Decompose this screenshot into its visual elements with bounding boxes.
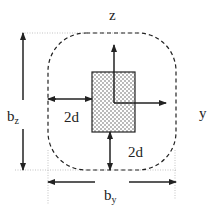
y-axis-label: y xyxy=(199,105,207,121)
by-main: b xyxy=(104,187,112,203)
bz-sub: z xyxy=(15,115,20,126)
bz-label: bz xyxy=(7,108,20,126)
by-sub: y xyxy=(112,194,117,205)
offset-left-label: 2d xyxy=(64,109,80,125)
z-axis-label: z xyxy=(109,7,116,23)
critical-perimeter-diagram: z y bz by 2d 2d xyxy=(0,0,211,209)
offset-bottom-label: 2d xyxy=(128,144,144,160)
bz-main: b xyxy=(7,108,15,124)
by-label: by xyxy=(104,187,117,205)
